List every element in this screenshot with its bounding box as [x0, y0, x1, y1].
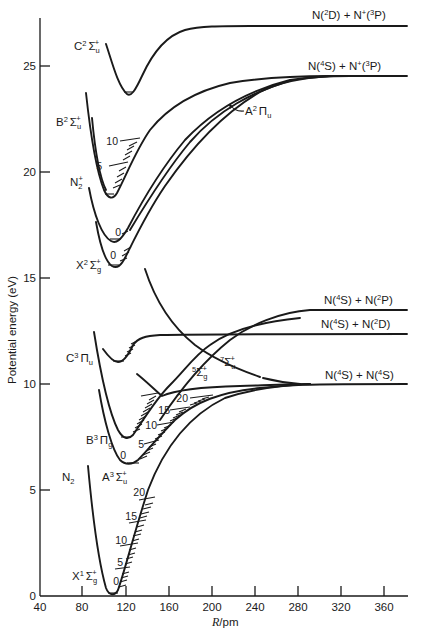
label-7Sigma-u: 7Σu+: [220, 354, 235, 371]
svg-text:15: 15: [125, 510, 137, 522]
label-N2plus: N2+: [70, 174, 83, 191]
limit-label-4S-2D: N(4S) + N(2D): [321, 317, 391, 330]
limit-label-4S-4S: N(4S) + N(4S): [325, 368, 394, 381]
svg-text:20: 20: [23, 166, 36, 178]
curve-B2Sigma-u: [86, 76, 407, 198]
svg-text:5: 5: [117, 556, 123, 568]
svg-text:15: 15: [158, 404, 170, 416]
limit-label-2D-N+3P: N(2D) + N+(3P): [312, 8, 386, 21]
label-C2Sigma-u: C2Σu+: [74, 38, 100, 55]
curve-A2Pi-u-2: [130, 80, 292, 230]
label-5Sigma-g: 5Σg+: [192, 364, 207, 381]
label-A2Pi-u: A2Πu: [245, 104, 271, 120]
svg-text:360: 360: [374, 601, 393, 613]
svg-text:280: 280: [288, 601, 307, 613]
x-axis-title: R/pm: [211, 615, 239, 629]
svg-text:80: 80: [76, 601, 89, 613]
svg-text:160: 160: [159, 601, 178, 613]
svg-text:320: 320: [331, 601, 350, 613]
B2-v10-label: 10: [106, 135, 118, 147]
potential-energy-diagram: 0 5 10 15 20 25 40 80 120 160 200 240 28…: [0, 0, 427, 631]
label-B2Sigma-u: B2Σu+: [56, 114, 81, 131]
y-tick-labels: 0 5 10 15 20 25: [23, 60, 36, 602]
svg-text:25: 25: [23, 60, 36, 72]
curve-X2Sigma-g: [96, 76, 330, 267]
curve-7Sigma-u: [145, 269, 260, 377]
svg-text:20: 20: [176, 392, 188, 404]
svg-text:10: 10: [145, 419, 157, 431]
limit-label-4S-2P: N(4S) + N(2P): [324, 293, 393, 306]
svg-text:15: 15: [23, 272, 36, 284]
axes: [40, 18, 408, 596]
svg-text:120: 120: [116, 601, 135, 613]
svg-text:5: 5: [138, 438, 144, 450]
y-axis-title: Potential energy (eV): [6, 276, 18, 384]
x-tick-labels: 40 80 120 160 200 240 280 320 360: [34, 601, 394, 613]
X2-v0-label: 0: [110, 249, 116, 261]
curve-C3Pi-u: [103, 334, 407, 362]
label-C3Pi-u: C3Πu: [66, 351, 93, 367]
svg-text:0: 0: [120, 449, 126, 461]
label-X2Sigma-g: X2Σg+: [76, 257, 101, 274]
svg-text:20: 20: [133, 486, 145, 498]
label-X1Sigma-g: X1Σg+: [72, 568, 97, 585]
svg-text:0: 0: [113, 575, 119, 587]
label-N2: N2: [62, 471, 74, 486]
svg-text:240: 240: [245, 601, 264, 613]
A2-v0-label: 0: [115, 226, 121, 238]
svg-text:10: 10: [23, 378, 36, 390]
svg-text:10: 10: [115, 534, 127, 546]
curve-A2Pi-u: [89, 76, 350, 242]
B2-v5-label: 5: [96, 160, 102, 172]
svg-text:5: 5: [30, 484, 36, 496]
limit-label-4S-N+3P: N(4S) + N+(3P): [308, 59, 381, 72]
label-A3Sigma-u: A3Σu+: [102, 469, 127, 486]
svg-text:200: 200: [202, 601, 221, 613]
svg-text:40: 40: [34, 601, 47, 613]
